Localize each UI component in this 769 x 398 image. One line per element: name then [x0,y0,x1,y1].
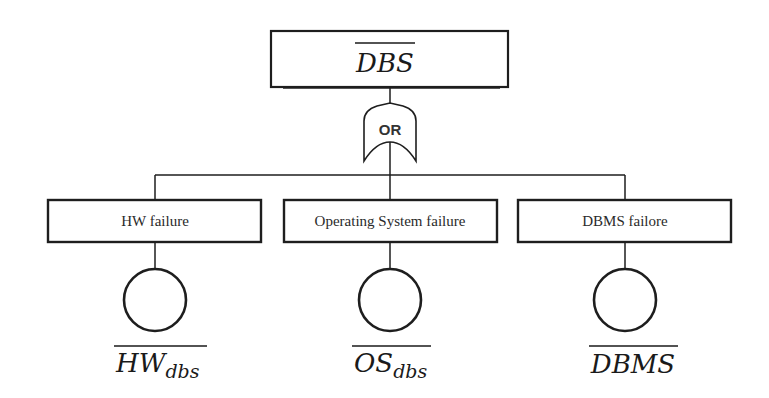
basic-event-os-main: OS [354,348,393,378]
basic-event-dbms-main: DBMS [590,349,675,379]
basic-event-os-label: OSdbs [352,346,431,382]
event-hw-failure-label: HW failure [121,213,189,229]
fault-tree-diagram: DBS OR HW failure Operating System failu… [0,0,769,398]
top-event-label: DBS [355,48,414,78]
basic-event-hw-sub: dbs [165,360,199,382]
event-dbms-failure-label: DBMS failore [582,213,668,229]
event-os-failure: Operating System failure [284,200,497,242]
svg-text:OSdbs: OSdbs [354,348,427,382]
top-event: DBS [271,31,508,89]
basic-event-hw-circle [124,269,186,331]
event-os-failure-label: Operating System failure [315,213,466,229]
svg-text:HWdbs: HWdbs [115,348,200,382]
event-dbms-failure: DBMS failore [518,200,731,242]
basic-event-os-sub: dbs [393,360,427,382]
basic-event-hw-main: HW [115,348,168,378]
basic-event-dbms-circle [594,269,656,331]
basic-event-hw-label: HWdbs [114,346,207,382]
event-hw-failure: HW failure [48,200,261,242]
basic-event-os-circle [359,269,421,331]
basic-event-dbms-label: DBMS [589,346,678,379]
or-gate-label: OR [379,121,402,138]
